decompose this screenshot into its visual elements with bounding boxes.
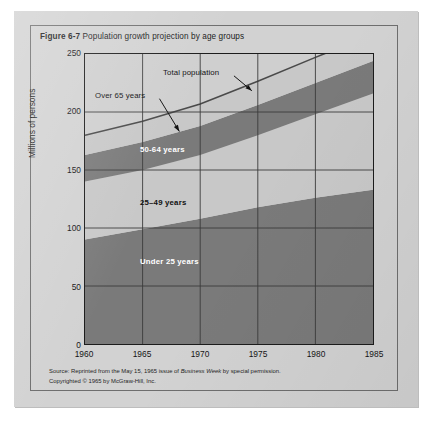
x-tick-1965: 1965 (133, 349, 152, 359)
band-label-50-64: 50-64 years (140, 145, 185, 154)
x-tick-1970: 1970 (191, 349, 210, 359)
x-tick-1985: 1985 (365, 349, 384, 359)
y-tick-100: 100 (67, 223, 81, 233)
y-axis-title: Millions of persons (27, 89, 37, 158)
x-axis-ticks: 1960 1965 1970 1975 1980 1985 (84, 349, 374, 363)
chart-plot-area: Total population Over 65 years 50-64 yea… (84, 53, 374, 345)
y-tick-250: 250 (67, 48, 81, 58)
band-label-under-25: Under 25 years (140, 257, 199, 266)
y-axis-ticks: 250 200 150 100 50 0 (45, 53, 81, 345)
scanned-page: Figure 6-7 Population growth projection … (0, 0, 440, 431)
source-line-1: Source: Reprinted from the May 15, 1965 … (49, 367, 399, 377)
y-tick-50: 50 (72, 282, 81, 292)
figure-title-text: Population growth projection by age grou… (83, 32, 245, 41)
x-tick-1960: 1960 (75, 349, 94, 359)
figure-frame: Figure 6-7 Population growth projection … (30, 25, 398, 391)
y-tick-200: 200 (67, 106, 81, 116)
x-tick-1975: 1975 (249, 349, 268, 359)
source-line-2: Copyrighted © 1965 by McGraw-Hill, Inc. (49, 377, 399, 387)
x-tick-1980: 1980 (307, 349, 326, 359)
callout-total-population: Total population (163, 68, 219, 77)
source-publication: Business Week (181, 368, 222, 374)
figure-number: Figure 6-7 (40, 32, 80, 41)
figure-card: Figure 6-7 Population growth projection … (14, 11, 418, 407)
source-note: Source: Reprinted from the May 15, 1965 … (49, 367, 399, 386)
band-label-25-49: 25–49 years (140, 198, 186, 207)
source-text-b: by special permission. (221, 368, 281, 374)
source-text-a: Source: Reprinted from the May 15, 1965 … (49, 368, 181, 374)
figure-title: Figure 6-7 Population growth projection … (40, 32, 244, 41)
callout-over-65-years: Over 65 years (95, 91, 145, 100)
y-tick-150: 150 (67, 165, 81, 175)
